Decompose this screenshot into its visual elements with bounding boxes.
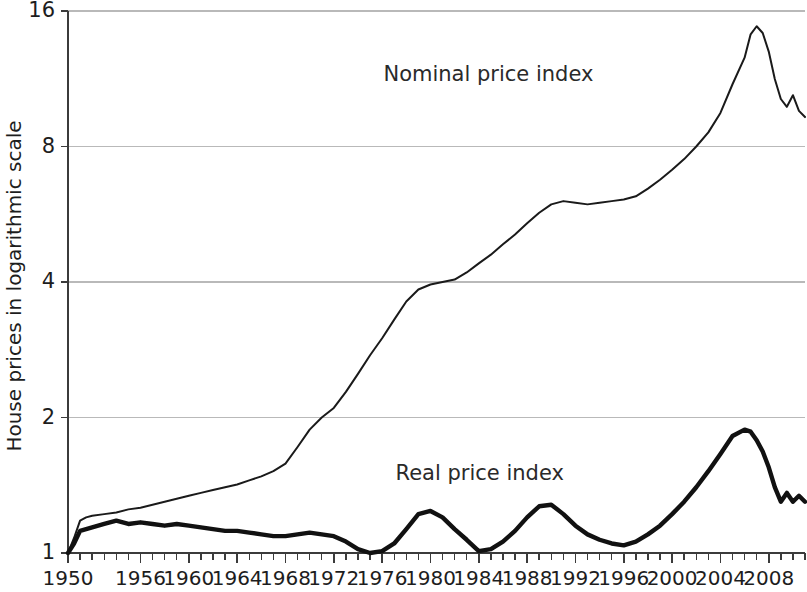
y-tick-label-8: 8: [42, 134, 55, 158]
y-axis-title: House prices in logarithmic scale: [2, 120, 26, 451]
y-tick-label-2: 2: [42, 405, 55, 429]
y-tick-label-4: 4: [42, 269, 55, 293]
annotation-nominal-price-index: Nominal price index: [383, 62, 593, 86]
x-tick-label-1976: 1976: [357, 566, 408, 590]
y-axis-group: [61, 11, 68, 553]
x-axis-group: [68, 553, 805, 563]
x-tick-label-1956: 1956: [115, 566, 166, 590]
y-tick-label-1: 1: [42, 540, 55, 564]
x-tick-labels-group: 1950195619601964196819721976198019841988…: [43, 566, 795, 590]
x-tick-label-2008: 2008: [743, 566, 794, 590]
x-tick-label-1992: 1992: [550, 566, 601, 590]
x-tick-label-1980: 1980: [405, 566, 456, 590]
x-tick-label-1964: 1964: [212, 566, 263, 590]
x-tick-label-1968: 1968: [260, 566, 311, 590]
x-tick-label-1988: 1988: [502, 566, 553, 590]
chart-container: 168421 195019561960196419681972197619801…: [0, 0, 807, 592]
y-tick-label-16: 16: [28, 0, 55, 22]
x-tick-label-2004: 2004: [695, 566, 746, 590]
x-tick-label-1960: 1960: [163, 566, 214, 590]
x-tick-label-1984: 1984: [453, 566, 504, 590]
series-line-real-price-index: [68, 430, 805, 553]
series-annotations-group: Nominal price indexReal price index: [383, 62, 593, 486]
x-tick-label-1972: 1972: [308, 566, 359, 590]
x-tick-label-1950: 1950: [43, 566, 94, 590]
y-tick-labels-group: 168421: [28, 0, 55, 564]
annotation-real-price-index: Real price index: [396, 461, 564, 485]
x-tick-label-2000: 2000: [647, 566, 698, 590]
house-price-index-chart: 168421 195019561960196419681972197619801…: [0, 0, 807, 592]
x-tick-label-1996: 1996: [598, 566, 649, 590]
